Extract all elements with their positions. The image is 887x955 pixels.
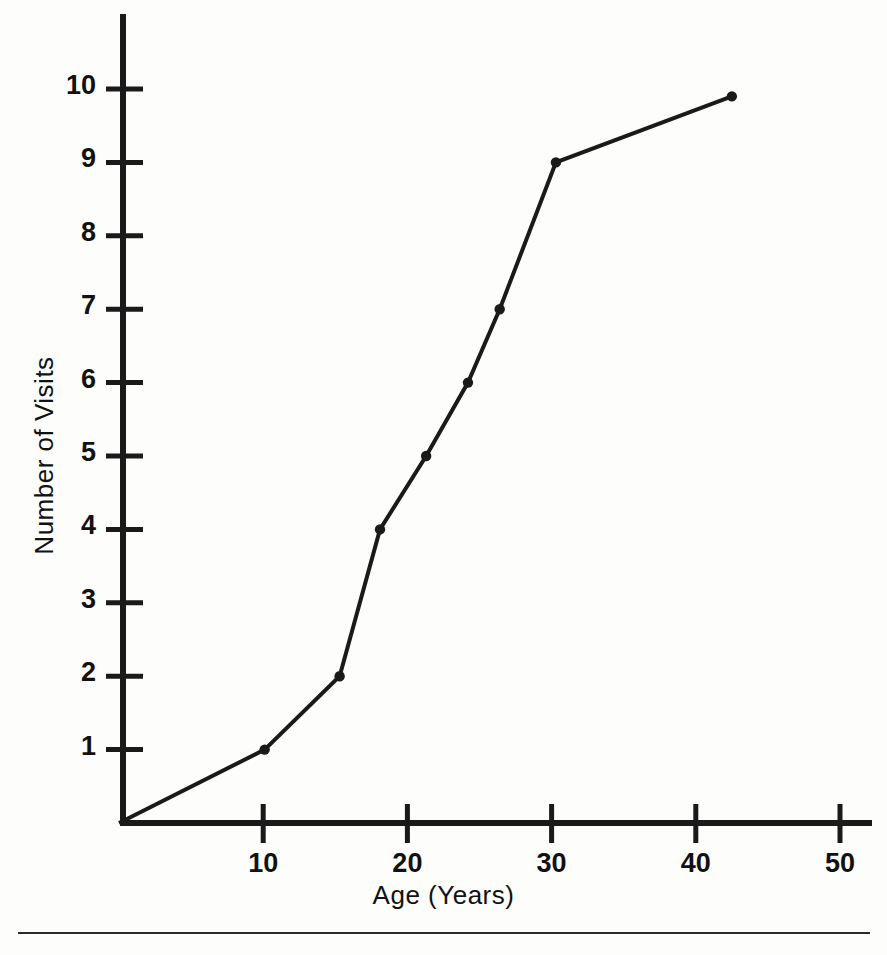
y-tick-label: 3 (36, 584, 96, 615)
data-point-markers (259, 91, 737, 755)
y-tick-label: 1 (36, 731, 96, 762)
data-point-marker (259, 744, 269, 754)
y-tick-label: 2 (36, 657, 96, 688)
y-tick-label: 4 (36, 510, 96, 541)
chart-figure: Number of Visits Age (Years) 12345678910… (0, 0, 887, 955)
x-tick-label: 50 (810, 848, 870, 879)
data-point-marker (494, 304, 504, 314)
x-tick-label: 30 (522, 848, 582, 879)
data-point-marker (727, 91, 737, 101)
y-tick-label: 6 (36, 364, 96, 395)
y-tick-label: 10 (36, 70, 96, 101)
y-tick-label: 9 (36, 143, 96, 174)
y-tick-label: 5 (36, 437, 96, 468)
data-point-marker (334, 671, 344, 681)
data-point-marker (463, 377, 473, 387)
axes-group (120, 14, 872, 823)
line-chart-plot (0, 0, 887, 955)
data-point-marker (421, 451, 431, 461)
data-point-marker (551, 157, 561, 167)
data-point-marker (375, 524, 385, 534)
y-tick-label: 7 (36, 290, 96, 321)
x-tick-label: 10 (233, 848, 293, 879)
x-tick-label: 40 (666, 848, 726, 879)
page-rule (18, 932, 870, 934)
y-tick-label: 8 (36, 217, 96, 248)
x-axis-label: Age (Years) (0, 880, 887, 911)
x-tick-label: 20 (377, 848, 437, 879)
